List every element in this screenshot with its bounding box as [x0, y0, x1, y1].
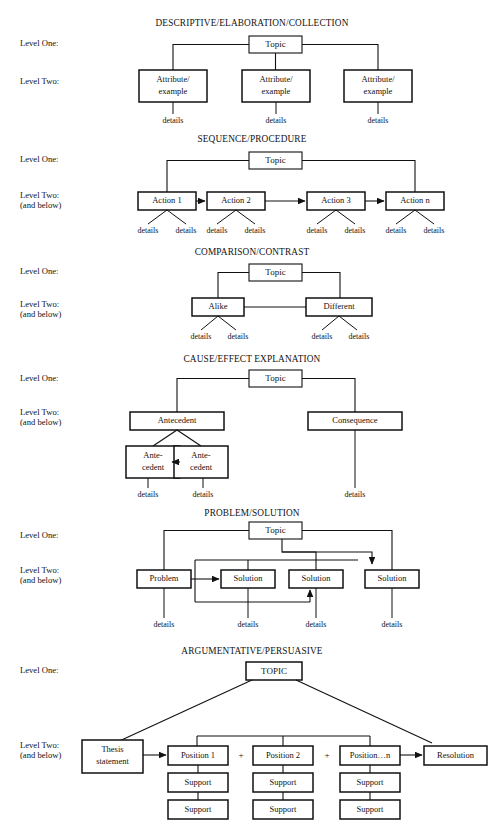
box-consequence-label: Consequence	[332, 415, 378, 425]
details-label: details	[424, 226, 445, 235]
box-support-label: Support	[270, 777, 298, 787]
box-support-label: Support	[270, 804, 298, 814]
details-label: details	[163, 116, 184, 125]
box-position-2-label: Position 2	[266, 750, 300, 760]
box-attribute-3-line1: Attribute/	[361, 74, 395, 84]
plus-sign: +	[324, 750, 329, 760]
diagram-argumentative: TOPIC Thesis statement Position 1 Positi…	[0, 640, 504, 823]
box-solution-2-label: Solution	[302, 573, 332, 583]
box-problem-label: Problem	[150, 573, 179, 583]
box-sub-antecedent-1-line2: cedent	[142, 462, 165, 472]
box-topic-label: Topic	[265, 525, 285, 535]
box-action-3-label: Action 3	[321, 195, 351, 205]
box-support-label: Support	[185, 777, 213, 787]
details-label: details	[266, 116, 287, 125]
section-cause-effect: CAUSE/EFFECT EXPLANATION Level One: Leve…	[0, 350, 504, 500]
diagram-sequence: Topic Action 1 Action 2 Action 3 Action …	[0, 130, 504, 240]
box-topic-label: Topic	[265, 39, 285, 49]
box-topic-label: TOPIC	[261, 666, 287, 676]
details-label: details	[368, 116, 389, 125]
box-action-1-label: Action 1	[152, 195, 182, 205]
section-comparison: COMPARISON/CONTRAST Level One: Level Two…	[0, 240, 504, 350]
box-thesis-line1: Thesis	[101, 744, 123, 754]
details-label: details	[238, 620, 259, 629]
box-position-n-label: Position…n	[350, 750, 391, 760]
box-resolution-label: Resolution	[437, 750, 475, 760]
diagram-comparison: Topic Alike Different details details de…	[0, 240, 504, 350]
plus-sign: +	[238, 750, 243, 760]
box-thesis-line2: statement	[96, 756, 129, 766]
details-label: details	[345, 490, 366, 499]
box-action-n-label: Action n	[400, 195, 430, 205]
section-argumentative: ARGUMENTATIVE/PERSUASIVE Level One: Leve…	[0, 640, 504, 823]
details-label: details	[349, 332, 370, 341]
details-label: details	[245, 226, 266, 235]
details-label: details	[191, 332, 212, 341]
details-label: details	[345, 226, 366, 235]
details-label: details	[138, 490, 159, 499]
diagram-cause-effect: Topic Antecedent Consequence Ante- ceden…	[0, 350, 504, 500]
details-label: details	[193, 490, 214, 499]
box-sub-antecedent-1-line1: Ante-	[143, 450, 163, 460]
box-attribute-1-line2: example	[159, 86, 188, 96]
box-topic-label: Topic	[265, 267, 285, 277]
box-attribute-2-line2: example	[262, 86, 291, 96]
section-problem-solution: PROBLEM/SOLUTION Level One: Level Two:(a…	[0, 500, 504, 640]
box-alike-label: Alike	[209, 301, 228, 311]
details-label: details	[307, 226, 328, 235]
box-action-2-label: Action 2	[221, 195, 251, 205]
details-label: details	[386, 226, 407, 235]
box-topic-label: Topic	[265, 373, 285, 383]
details-label: details	[228, 332, 249, 341]
details-label: details	[138, 226, 159, 235]
box-antecedent-label: Antecedent	[158, 415, 197, 425]
box-sub-antecedent-2-line2: cedent	[190, 462, 213, 472]
box-different-label: Different	[324, 301, 356, 311]
diagram-descriptive: Topic Attribute/ example Attribute/ exam…	[0, 0, 504, 130]
details-label: details	[312, 332, 333, 341]
diagram-problem-solution: Topic Problem Solution Solution Solution	[0, 500, 504, 640]
details-label: details	[207, 226, 228, 235]
details-label: details	[382, 620, 403, 629]
box-support-label: Support	[185, 804, 213, 814]
box-attribute-3-line2: example	[364, 86, 393, 96]
details-label: details	[154, 620, 175, 629]
box-attribute-2-line1: Attribute/	[259, 74, 293, 84]
box-solution-1-label: Solution	[234, 573, 264, 583]
section-descriptive: DESCRIPTIVE/ELABORATION/COLLECTION Level…	[0, 0, 504, 130]
box-solution-3-label: Solution	[378, 573, 408, 583]
box-support-label: Support	[357, 804, 385, 814]
box-support-label: Support	[357, 777, 385, 787]
box-sub-antecedent-2-line1: Ante-	[191, 450, 211, 460]
details-label: details	[176, 226, 197, 235]
details-label: details	[306, 620, 327, 629]
box-topic-label: Topic	[265, 155, 285, 165]
diagram-page: DESCRIPTIVE/ELABORATION/COLLECTION Level…	[0, 0, 504, 823]
box-position-1-label: Position 1	[181, 750, 215, 760]
section-sequence: SEQUENCE/PROCEDURE Level One: Level Two:…	[0, 130, 504, 240]
box-attribute-1-line1: Attribute/	[156, 74, 190, 84]
